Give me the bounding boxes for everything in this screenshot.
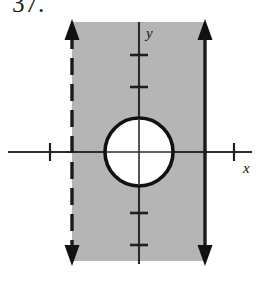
figure-container: 37. y x bbox=[0, 0, 261, 283]
coordinate-plane-graph: y x bbox=[0, 0, 261, 283]
x-axis-label: x bbox=[242, 160, 250, 176]
y-axis-label: y bbox=[144, 25, 153, 41]
